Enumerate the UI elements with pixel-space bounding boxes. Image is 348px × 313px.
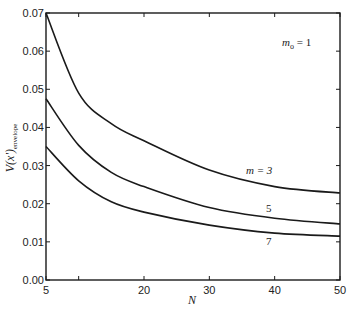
curve-label-m3: m = 3 — [246, 164, 273, 176]
axis-ticks: 5203040500.000.010.020.030.040.050.060.0… — [23, 7, 347, 296]
y-tick-label: 0.05 — [23, 83, 44, 95]
chart: 5203040500.000.010.020.030.040.050.060.0… — [0, 0, 348, 313]
y-tick-label: 0.03 — [23, 160, 44, 172]
x-axis-title: N — [187, 293, 197, 307]
plot-frame — [46, 13, 340, 280]
y-axis-title: V(x')envelope — [3, 124, 19, 172]
curve-m7 — [46, 147, 340, 237]
y-tick-label: 0.07 — [23, 7, 44, 19]
y-tick-label: 0.06 — [23, 45, 44, 57]
curve-m5 — [46, 99, 340, 224]
y-tick-label: 0.00 — [23, 274, 44, 286]
x-tick-label: 30 — [203, 284, 215, 296]
svg-text:V(x')envelope: V(x')envelope — [3, 124, 19, 172]
y-tick-label: 0.04 — [23, 121, 44, 133]
x-tick-label: 50 — [334, 284, 346, 296]
y-tick-label: 0.02 — [23, 198, 44, 210]
x-tick-label: 20 — [138, 284, 150, 296]
curve-label-m5: 5 — [266, 202, 272, 214]
y-tick-label: 0.01 — [23, 236, 44, 248]
curve-label-m7: 7 — [266, 235, 272, 247]
plot-border — [46, 13, 340, 280]
x-tick-label: 40 — [269, 284, 281, 296]
annotation-m0: mo = 1 — [282, 36, 311, 51]
